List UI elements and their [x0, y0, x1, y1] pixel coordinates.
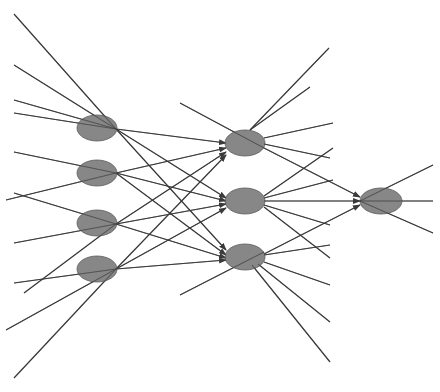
hidden-node-h1	[225, 130, 265, 156]
connection-line-overlay	[250, 87, 310, 130]
hidden-node-h3	[225, 244, 265, 270]
connection-line-overlay	[14, 269, 116, 378]
connection-line-overlay	[116, 208, 226, 269]
connection-line-overlay	[6, 269, 116, 330]
connection-line-overlay	[264, 123, 333, 138]
connection-line-overlay	[116, 129, 226, 143]
connection-line-overlay	[14, 65, 116, 129]
connection-line-overlay	[264, 205, 360, 254]
connection-line-overlay	[252, 265, 330, 362]
connection-line-overlay	[116, 260, 226, 269]
hidden-node-h2	[225, 188, 265, 214]
connection-line-overlay	[264, 262, 330, 285]
connection-line-overlay	[14, 193, 116, 224]
connection-line-overlay	[116, 224, 226, 258]
connection-line-overlay	[116, 148, 226, 173]
connection-line-overlay	[250, 48, 329, 130]
neural-network-diagram	[0, 0, 440, 392]
input-node-in2	[77, 160, 117, 186]
connection-line-overlay	[116, 129, 226, 250]
connection-line-overlay	[180, 252, 264, 295]
network-nodes	[6, 14, 433, 378]
input-node-in4	[77, 256, 117, 282]
connection-line-overlay	[264, 144, 330, 158]
connection-line-overlay	[14, 100, 116, 129]
connection-line-overlay	[14, 14, 116, 129]
connection-line-overlay	[116, 155, 226, 269]
connection-line-overlay	[116, 204, 226, 224]
connection-line-overlay	[180, 103, 264, 148]
connection-line-overlay	[264, 148, 360, 197]
